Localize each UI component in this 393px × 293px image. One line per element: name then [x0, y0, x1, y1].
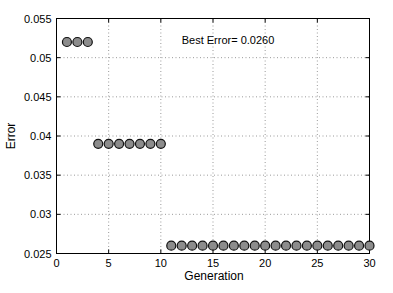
y-tick-label: 0.03 [30, 208, 51, 220]
data-point [125, 139, 134, 148]
data-point [209, 241, 218, 250]
data-point [177, 241, 186, 250]
x-tick-label: 15 [207, 257, 219, 269]
data-point [365, 241, 374, 250]
data-points [62, 38, 374, 251]
data-point [135, 139, 144, 148]
data-point [188, 241, 197, 250]
x-tick-label: 25 [311, 257, 323, 269]
data-point [62, 38, 71, 47]
data-point [146, 139, 155, 148]
y-tick-label: 0.035 [24, 169, 52, 181]
x-tick-label: 20 [259, 257, 271, 269]
y-tick-label: 0.025 [24, 248, 52, 260]
data-point [271, 241, 280, 250]
data-point [156, 139, 165, 148]
y-tick-labels: 0.0250.030.0350.040.0450.050.055 [24, 13, 52, 260]
figure-window: 051015202530 0.0250.030.0350.040.0450.05… [0, 0, 393, 293]
x-tick-labels: 051015202530 [53, 257, 375, 269]
data-point [73, 38, 82, 47]
annotation-best-error: Best Error= 0.0260 [182, 34, 275, 46]
x-tick-label: 30 [363, 257, 375, 269]
data-point [302, 241, 311, 250]
data-point [313, 241, 322, 250]
data-point [198, 241, 207, 250]
x-tick-label: 10 [155, 257, 167, 269]
data-point [261, 241, 270, 250]
y-tick-label: 0.05 [30, 52, 51, 64]
x-tick-label: 5 [106, 257, 112, 269]
data-point [355, 241, 364, 250]
data-point [83, 38, 92, 47]
data-point [219, 241, 228, 250]
data-point [334, 241, 343, 250]
data-point [323, 241, 332, 250]
data-point [240, 241, 249, 250]
x-axis-label: Generation [184, 269, 243, 283]
data-point [292, 241, 301, 250]
y-tick-label: 0.04 [30, 130, 51, 142]
y-tick-label: 0.045 [24, 91, 52, 103]
grid-lines [57, 19, 370, 254]
data-point [229, 241, 238, 250]
data-point [104, 139, 113, 148]
annotation-layer: Best Error= 0.0260 [182, 34, 275, 46]
data-point [250, 241, 259, 250]
data-point [282, 241, 291, 250]
data-point [94, 139, 103, 148]
x-tick-label: 0 [53, 257, 59, 269]
data-point [115, 139, 124, 148]
y-axis-label: Error [4, 123, 18, 150]
data-point [344, 241, 353, 250]
data-point [167, 241, 176, 250]
error-vs-generation-chart: 051015202530 0.0250.030.0350.040.0450.05… [0, 0, 393, 293]
y-tick-label: 0.055 [24, 13, 52, 25]
